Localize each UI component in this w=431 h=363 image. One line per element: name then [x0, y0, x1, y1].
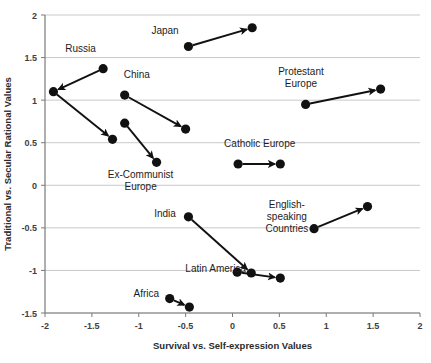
arrow-japan [193, 29, 247, 45]
point-end-russia [49, 87, 58, 96]
y-tick-labels: 21.510.50-0.5-1-1.5 [21, 11, 37, 319]
series-label-africa: Africa [133, 288, 159, 299]
point-end-japan [248, 23, 257, 32]
series-label-line: Catholic Europe [224, 138, 296, 149]
point-end-protestant-europe [376, 84, 385, 93]
x-tick-label: -2 [41, 321, 49, 331]
y-axis-title: Traditional vs. Secular Rational Values [2, 77, 13, 251]
arrow-china [129, 97, 181, 126]
arrow-english-speaking-countries [318, 209, 362, 227]
series-label-line: Countries [265, 223, 308, 234]
series-label-line: Europe [125, 181, 158, 192]
series-label-japan: Japan [151, 25, 178, 36]
series-label-line: Africa [133, 288, 159, 299]
series-label-line: Russia [65, 43, 96, 54]
point-start-africa [165, 294, 174, 303]
x-tick-label: 1.5 [367, 321, 380, 331]
arrow-india [192, 220, 247, 269]
point-end-russia-secondary [108, 135, 117, 144]
point-start-china [120, 90, 129, 99]
y-tick-label: -0.5 [21, 223, 37, 233]
series-label-catholic-europe: Catholic Europe [224, 138, 296, 149]
arrow-africa [174, 300, 184, 305]
x-axis-title: Survival vs. Self-expression Values [153, 340, 312, 351]
series-label-line: Latin America [185, 263, 246, 274]
x-tick-label: -0.5 [178, 321, 194, 331]
point-end-english-speaking-countries [363, 202, 372, 211]
series-label-line: India [154, 208, 176, 219]
point-end-latin-america [276, 273, 285, 282]
series-label-english-speaking-countries: English-speakingCountries [265, 199, 308, 234]
series-label-line: Protestant [278, 66, 324, 77]
arrow-latin-america [242, 273, 275, 278]
scatter-chart: -2-1.5-1-0.500.511.52 21.510.50-0.5-1-1.… [0, 0, 431, 363]
y-tick-label: 0.5 [24, 138, 37, 148]
series-label-line: Japan [151, 25, 178, 36]
y-tick-label: -1 [29, 266, 37, 276]
point-start-protestant-europe [301, 100, 310, 109]
y-tick-label: 1 [32, 96, 37, 106]
series-label-line: speaking [267, 211, 307, 222]
arrow-russia [59, 71, 100, 90]
series-label-russia: Russia [65, 43, 96, 54]
series-label-latin-america: Latin America [185, 263, 246, 274]
series-label-protestant-europe: ProtestantEurope [278, 66, 324, 89]
point-end-china [181, 124, 190, 133]
x-tick-label: 2 [417, 321, 422, 331]
series-label-china: China [124, 69, 151, 80]
point-start-ex-communist-europe [120, 119, 129, 128]
arrow-protestant-europe [310, 90, 375, 103]
point-end-india [247, 268, 256, 277]
series-label-line: Europe [285, 78, 318, 89]
x-tick-label: 0.5 [273, 321, 286, 331]
series-label-line: English- [269, 199, 305, 210]
point-end-ex-communist-europe [152, 158, 161, 167]
series-label-line: Ex-Communist [108, 169, 174, 180]
arrow-russia-secondary [57, 94, 108, 135]
point-start-russia [99, 64, 108, 73]
point-end-catholic-europe [276, 159, 285, 168]
x-tick-labels: -2-1.5-1-0.500.511.52 [41, 321, 423, 331]
series-label-ex-communist-europe: Ex-CommunistEurope [108, 169, 174, 192]
x-tick-label: -1.5 [84, 321, 100, 331]
point-start-english-speaking-countries [309, 224, 318, 233]
x-tick-label: 1 [324, 321, 329, 331]
y-tick-label: 2 [32, 11, 37, 21]
x-tick-label: -1 [135, 321, 143, 331]
point-start-india [184, 212, 193, 221]
point-start-japan [184, 42, 193, 51]
x-tick-label: 0 [230, 321, 235, 331]
y-tick-label: 0 [32, 181, 37, 191]
point-end-africa [185, 302, 194, 311]
y-tick-label: 1.5 [24, 53, 37, 63]
point-start-catholic-europe [234, 159, 243, 168]
chart-canvas: -2-1.5-1-0.500.511.52 21.510.50-0.5-1-1.… [0, 0, 431, 363]
y-tick-label: -1.5 [21, 309, 37, 319]
series-label-line: China [124, 69, 151, 80]
series-label-india: India [154, 208, 176, 219]
